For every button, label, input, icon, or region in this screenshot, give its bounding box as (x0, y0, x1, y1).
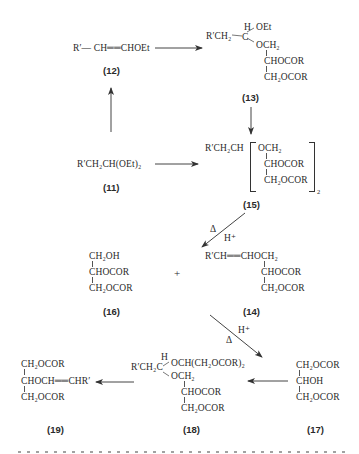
compound-15-label: (15) (243, 199, 260, 210)
compound-18-label: (18) (183, 424, 200, 435)
compound-11-formula: R′CH₂CH(OEt)₂ (77, 159, 141, 170)
compound-19-line3: CH₂OCOR (21, 392, 65, 403)
arrow-14-to-17 (210, 315, 262, 357)
compound-12-label: (12) (103, 65, 120, 76)
compound-18-r-group: R′CH₂C (131, 362, 163, 373)
compound-14-label: (14) (243, 306, 260, 317)
compound-11-label: (11) (103, 182, 119, 193)
compound-14-line1: R′CH══CHOCH₂ (205, 251, 278, 262)
compound-13-carbon: C (242, 32, 248, 43)
compound-15-r-group: R′CH₂CH (205, 143, 244, 154)
compound-14-line2: CHOCOR (261, 267, 301, 278)
compound-16-line2: CHOCOR (89, 267, 129, 278)
compound-18-chocor: CHOCOR (181, 387, 221, 398)
heat-symbol: Δ (210, 224, 216, 235)
right-bracket (309, 142, 315, 192)
acid-catalyst: H⁺ (224, 233, 236, 244)
compound-18-och2: OCH₂ (171, 371, 195, 382)
heat-symbol: Δ (226, 335, 232, 346)
plus-sign: + (174, 268, 180, 279)
compound-16-line1: CH₂OH (89, 251, 120, 262)
compound-15-ch2ocor: CH₂OCOR (264, 175, 308, 186)
compound-19-label: (19) (47, 424, 64, 435)
compound-16-label: (16) (103, 306, 120, 317)
compound-12-formula: R′— CH══CHOEt (73, 43, 150, 54)
compound-13-ch2ocor: CH₂OCOR (264, 72, 308, 83)
compound-16-line3: CH₂OCOR (89, 283, 133, 294)
compound-19-line1: CH₂OCOR (21, 359, 65, 370)
bond (24, 369, 25, 375)
compound-17-line3: CH₂OCOR (296, 392, 340, 403)
compound-13-och2: OCH₂ (256, 40, 280, 51)
left-bracket (250, 142, 256, 192)
compound-13-label: (13) (242, 92, 259, 103)
compound-18-branch: OCH(CH₂OCOR)₂ (171, 358, 245, 369)
compound-15-och2: OCH₂ (258, 143, 282, 154)
compound-17-line1: CH₂OCOR (296, 360, 340, 371)
cut-off-footer-text (18, 448, 348, 454)
compound-14-line3: CH₂OCOR (261, 283, 305, 294)
compound-17-line2: CHOH (296, 376, 323, 387)
compound-18-ch2ocor: CH₂OCOR (181, 403, 225, 414)
compound-13-oet: OEt (256, 22, 272, 33)
compound-13-chocor: CHOCOR (264, 56, 304, 67)
compound-17-label: (17) (307, 424, 324, 435)
compound-19-line2: CHOCH══CHR′ (21, 376, 90, 387)
compound-15-chocor: CHOCOR (264, 159, 304, 170)
compound-13-r-group: R′CH₂ (206, 31, 231, 42)
acid-catalyst: H⁺ (238, 325, 250, 336)
compound-15-subscript: 2 (317, 186, 320, 197)
